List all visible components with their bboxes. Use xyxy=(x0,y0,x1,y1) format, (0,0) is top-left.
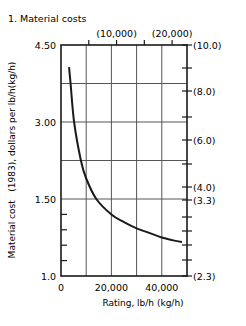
x-tick-label: 0 xyxy=(58,282,64,293)
right-tick-label: (4.0) xyxy=(193,182,216,193)
right-tick-label: (10.0) xyxy=(193,40,222,51)
y-tick-label: 3.00 xyxy=(35,117,56,128)
y-tick-label: 4.50 xyxy=(35,40,56,51)
chart-title: 1. Material costs xyxy=(8,13,86,24)
right-tick-label: (2.3) xyxy=(193,271,216,282)
material-cost-chart: 1. Material costs 4.503.001.501.0020,000… xyxy=(0,0,246,326)
y-tick-label: 1.50 xyxy=(35,194,56,205)
x-tick-label: 20,000 xyxy=(95,282,128,293)
top-tick-label: (10,000) xyxy=(96,28,137,39)
x-axis-title: Rating, lb/h (kg/h) xyxy=(102,298,183,308)
y-axis-title: Material cost (1983), dollars per lb/h(k… xyxy=(7,62,17,259)
right-tick-label: (6.0) xyxy=(193,135,216,146)
y-tick-label: 1.0 xyxy=(41,271,56,282)
x-tick-label: 40,000 xyxy=(145,282,178,293)
right-tick-label: (3.3) xyxy=(193,195,216,206)
right-tick-label: (8.0) xyxy=(193,86,216,97)
top-tick-label: (20,000) xyxy=(152,28,193,39)
